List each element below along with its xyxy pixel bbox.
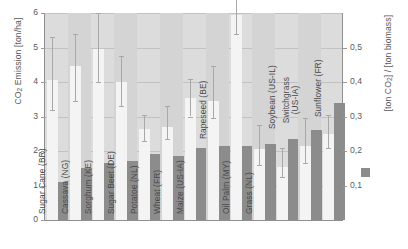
error-bar-cap-upper: [119, 56, 124, 57]
error-bar-cap-upper: [257, 125, 262, 126]
x-axis-category-label: Soybean (US-IL): [267, 65, 276, 129]
y-axis-left-title: CO2 Emission [ton/ha]: [13, 0, 23, 123]
error-bar: [98, 13, 99, 82]
y-axis-right-tick-mark: [343, 151, 347, 152]
bar-co2-emission: [231, 15, 242, 220]
y-axis-left-tick-label: 1: [22, 180, 38, 190]
y-axis-right-tick-label: 0,4: [350, 76, 372, 86]
y-axis-left-tick-mark: [41, 117, 45, 118]
y-axis-left-tick-label: 0: [22, 214, 38, 224]
error-bar-cap-lower: [188, 117, 193, 118]
y-axis-right-tick-mark: [343, 117, 347, 118]
error-bar-cap-lower: [165, 139, 170, 140]
x-axis-category-label: Sugar Beet (DE): [106, 151, 115, 214]
y-axis-right-tick-label: 0,1: [350, 180, 372, 190]
error-bar-cap-upper: [142, 115, 147, 116]
y-axis-right-tick-label: 0,5: [350, 42, 372, 52]
legend-swatch-gray-square-icon: [361, 168, 370, 177]
x-axis-category-label: Sugar Cane (BR): [37, 148, 46, 214]
error-bar: [282, 148, 283, 177]
error-bar-cap-upper: [280, 148, 285, 149]
error-bar-cap-upper: [211, 66, 216, 67]
error-bar-cap-lower: [234, 34, 239, 35]
error-bar: [236, 0, 237, 34]
bar-co2-emission: [139, 129, 150, 220]
chart-container: CO2 Emission [ton/ha] [ton CO2] / [ton b…: [0, 0, 408, 249]
error-bar-cap-upper: [303, 118, 308, 119]
y-axis-right-tick-mark: [343, 48, 347, 49]
y-axis-left-tick-label: 4: [22, 76, 38, 86]
bar-co2-per-biomass: [196, 148, 207, 220]
error-bar-cap-upper: [188, 79, 193, 80]
error-bar-cap-lower: [257, 165, 262, 166]
error-bar-cap-lower: [326, 148, 331, 149]
error-bar-cap-upper: [96, 13, 101, 14]
y-axis-right-tick-label: 0,3: [350, 111, 372, 121]
x-axis-category-label: Grass (NL): [244, 172, 253, 214]
y-axis-left-tick-label: 3: [22, 111, 38, 121]
bar-co2-per-biomass: [311, 130, 322, 220]
bar-co2-per-biomass: [265, 144, 276, 220]
error-bar: [190, 79, 191, 117]
error-bar: [213, 66, 214, 118]
error-bar-cap-lower: [73, 101, 78, 102]
bar-co2-per-biomass: [288, 139, 299, 220]
error-bar-cap-lower: [50, 110, 55, 111]
y-axis-right-tick-label: 0,2: [350, 145, 372, 155]
x-axis-category-label: Rapeseed (BE): [198, 81, 207, 140]
error-bar: [75, 34, 76, 101]
y-axis-right-title: [ton CO2] / [ton biomass]: [383, 0, 393, 133]
error-bar-cap-lower: [96, 82, 101, 83]
error-bar-cap-lower: [280, 177, 285, 178]
error-bar-cap-upper: [50, 37, 55, 38]
x-axis-category-label: Oil Palm (MY): [221, 161, 230, 214]
y-axis-left-tick-mark: [41, 82, 45, 83]
y-axis-left-tick-mark: [41, 13, 45, 14]
x-axis-category-label: Potatoe (NL): [129, 165, 138, 214]
error-bar-cap-lower: [119, 106, 124, 107]
error-bar: [167, 106, 168, 139]
bar-co2-emission: [162, 127, 173, 220]
x-axis-category-label: Cassava (NG): [60, 160, 69, 214]
error-bar-cap-lower: [211, 118, 216, 119]
y-axis-left-tick-label: 2: [22, 145, 38, 155]
x-axis-category-label: Sorghum (KE): [83, 160, 92, 214]
x-axis-line: [44, 220, 343, 221]
y-axis-left-tick-mark: [41, 220, 45, 221]
x-axis-category-label: Switchgrass(US-IA): [281, 77, 299, 123]
y-axis-left-tick-label: 5: [22, 42, 38, 52]
bar-co2-per-biomass: [334, 103, 345, 220]
error-bar-cap-lower: [142, 141, 147, 142]
error-bar: [305, 118, 306, 163]
y-axis-left-tick-label: 6: [22, 7, 38, 17]
x-axis-category-label: Wheat (FR): [152, 170, 161, 214]
error-bar-cap-lower: [303, 163, 308, 164]
error-bar: [259, 125, 260, 165]
y-axis-left-tick-mark: [41, 48, 45, 49]
y-axis-right-tick-mark: [343, 186, 347, 187]
error-bar: [121, 56, 122, 106]
x-axis-category-label: Sunflower (FR): [313, 59, 322, 117]
y-axis-right-tick-mark: [343, 82, 347, 83]
x-axis-category-label: Maize (US-IA): [175, 160, 184, 214]
error-bar: [144, 115, 145, 141]
error-bar-cap-upper: [165, 106, 170, 107]
error-bar: [52, 37, 53, 109]
error-bar-cap-upper: [326, 115, 331, 116]
error-bar-cap-upper: [73, 34, 78, 35]
error-bar: [328, 115, 329, 148]
